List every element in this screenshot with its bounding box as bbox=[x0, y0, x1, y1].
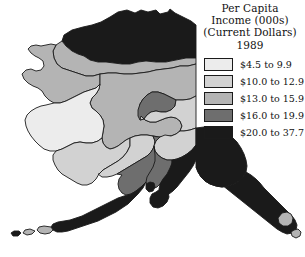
legend-label-4: $16.0 to 19.9 bbox=[240, 110, 304, 121]
legend-swatch-4 bbox=[204, 109, 233, 122]
legend-entries: $4.5 to 9.9 $10.0 to 12.9 $13.0 to 15.9 … bbox=[196, 57, 304, 141]
legend-item-2: $10.0 to 12.9 bbox=[204, 74, 304, 90]
region-aleutians-west bbox=[37, 226, 53, 234]
region-kodiak-island-small bbox=[146, 182, 155, 192]
legend-title: Per Capita Income (000s) (Current Dollar… bbox=[196, 2, 304, 51]
legend-label-2: $10.0 to 12.9 bbox=[240, 76, 304, 87]
legend-item-1: $4.5 to 9.9 bbox=[204, 57, 304, 73]
legend-swatch-5 bbox=[204, 126, 233, 139]
legend-title-line-2: Income (000s) bbox=[196, 14, 304, 26]
legend-title-line-1: Per Capita bbox=[196, 2, 304, 14]
legend-item-5: $20.0 to 37.7 bbox=[204, 125, 304, 141]
legend-label-5: $20.0 to 37.7 bbox=[240, 127, 304, 138]
legend-label-3: $13.0 to 15.9 bbox=[240, 93, 304, 104]
legend-item-4: $16.0 to 19.9 bbox=[204, 108, 304, 124]
legend-item-3: $13.0 to 15.9 bbox=[204, 91, 304, 107]
legend-title-line-4: 1989 bbox=[196, 39, 304, 51]
legend-title-line-3: (Current Dollars) bbox=[196, 26, 304, 38]
legend-swatch-3 bbox=[204, 92, 233, 105]
per-capita-income-map-figure: Per Capita Income (000s) (Current Dollar… bbox=[0, 0, 305, 257]
legend-swatch-2 bbox=[204, 75, 233, 88]
legend-swatch-1 bbox=[204, 58, 233, 71]
map-legend: Per Capita Income (000s) (Current Dollar… bbox=[196, 2, 304, 142]
legend-label-1: $4.5 to 9.9 bbox=[240, 59, 292, 70]
